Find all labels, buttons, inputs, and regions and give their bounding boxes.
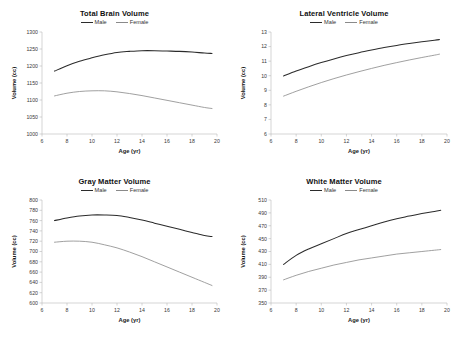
- svg-text:16: 16: [394, 138, 400, 144]
- svg-text:Age (yr): Age (yr): [348, 317, 370, 323]
- svg-text:Age (yr): Age (yr): [348, 148, 370, 154]
- svg-text:450: 450: [258, 236, 267, 242]
- svg-text:8: 8: [295, 138, 298, 144]
- svg-text:7: 7: [264, 116, 267, 122]
- svg-text:20: 20: [214, 307, 220, 313]
- svg-text:Volume (cc): Volume (cc): [11, 67, 17, 99]
- svg-text:20: 20: [444, 138, 450, 144]
- svg-text:660: 660: [29, 269, 38, 275]
- svg-text:700: 700: [29, 248, 38, 254]
- svg-text:1250: 1250: [26, 46, 38, 52]
- svg-text:680: 680: [29, 259, 38, 265]
- svg-text:430: 430: [258, 248, 267, 254]
- svg-text:6: 6: [264, 131, 267, 137]
- svg-text:6: 6: [41, 307, 44, 313]
- panel-gray-matter-volume: Gray Matter Volume Male Female 600620640…: [0, 168, 229, 337]
- svg-text:14: 14: [369, 307, 375, 313]
- svg-text:18: 18: [419, 307, 425, 313]
- svg-text:600: 600: [29, 300, 38, 306]
- svg-text:8: 8: [264, 102, 267, 108]
- svg-text:6: 6: [270, 307, 273, 313]
- svg-text:13: 13: [261, 29, 267, 35]
- svg-text:8: 8: [66, 138, 69, 144]
- svg-text:Volume (cc): Volume (cc): [11, 235, 17, 267]
- svg-text:10: 10: [89, 138, 95, 144]
- svg-text:16: 16: [164, 138, 170, 144]
- svg-text:20: 20: [214, 138, 220, 144]
- svg-text:6: 6: [41, 138, 44, 144]
- svg-text:760: 760: [29, 218, 38, 224]
- svg-text:490: 490: [258, 210, 267, 216]
- svg-text:350: 350: [258, 300, 267, 306]
- svg-text:14: 14: [139, 138, 145, 144]
- svg-text:1000: 1000: [26, 131, 38, 137]
- svg-text:18: 18: [419, 138, 425, 144]
- panel-white-matter-volume: White Matter Volume Male Female 35037039…: [229, 168, 459, 337]
- svg-text:10: 10: [89, 307, 95, 313]
- svg-text:620: 620: [29, 290, 38, 296]
- plot-area: 67891011121368101214161820Age (yr)Volume…: [229, 0, 459, 168]
- svg-text:12: 12: [261, 43, 267, 49]
- svg-text:740: 740: [29, 228, 38, 234]
- svg-text:12: 12: [114, 307, 120, 313]
- plot-area: 6006206406606807007207407607808006810121…: [0, 168, 229, 337]
- svg-text:390: 390: [258, 274, 267, 280]
- svg-text:18: 18: [189, 307, 195, 313]
- svg-text:470: 470: [258, 223, 267, 229]
- svg-text:Age (yr): Age (yr): [119, 148, 141, 154]
- svg-text:12: 12: [114, 138, 120, 144]
- panel-total-brain-volume: Total Brain Volume Male Female 100010501…: [0, 0, 229, 168]
- svg-text:Age (yr): Age (yr): [119, 317, 141, 323]
- svg-text:10: 10: [318, 307, 324, 313]
- svg-text:Volume (cc): Volume (cc): [240, 235, 246, 267]
- svg-text:1200: 1200: [26, 63, 38, 69]
- svg-text:370: 370: [258, 287, 267, 293]
- svg-text:1050: 1050: [26, 114, 38, 120]
- svg-text:8: 8: [295, 307, 298, 313]
- svg-text:Volume (cc): Volume (cc): [240, 67, 246, 99]
- svg-text:11: 11: [262, 58, 267, 64]
- svg-text:720: 720: [29, 238, 38, 244]
- svg-text:9: 9: [264, 87, 267, 93]
- svg-text:16: 16: [164, 307, 170, 313]
- svg-text:1100: 1100: [27, 97, 38, 103]
- svg-text:14: 14: [369, 138, 375, 144]
- plot-area: 1000105011001150120012501300681012141618…: [0, 0, 229, 168]
- svg-text:12: 12: [344, 138, 350, 144]
- svg-text:20: 20: [444, 307, 450, 313]
- svg-text:10: 10: [318, 138, 324, 144]
- svg-text:640: 640: [29, 279, 38, 285]
- svg-text:510: 510: [258, 197, 267, 203]
- svg-text:10: 10: [261, 73, 267, 79]
- svg-text:1300: 1300: [26, 29, 38, 35]
- svg-text:6: 6: [270, 138, 273, 144]
- panel-lateral-ventricle-volume: Lateral Ventricle Volume Male Female 678…: [229, 0, 459, 168]
- svg-text:18: 18: [189, 138, 195, 144]
- svg-text:8: 8: [66, 307, 69, 313]
- svg-text:12: 12: [344, 307, 350, 313]
- svg-text:1150: 1150: [27, 80, 38, 86]
- svg-text:14: 14: [139, 307, 145, 313]
- svg-text:800: 800: [29, 197, 38, 203]
- svg-text:16: 16: [394, 307, 400, 313]
- svg-text:780: 780: [29, 207, 38, 213]
- plot-area: 3503703904104304504704905106810121416182…: [229, 168, 459, 337]
- svg-text:410: 410: [258, 261, 267, 267]
- figure-grid: Total Brain Volume Male Female 100010501…: [0, 0, 459, 337]
